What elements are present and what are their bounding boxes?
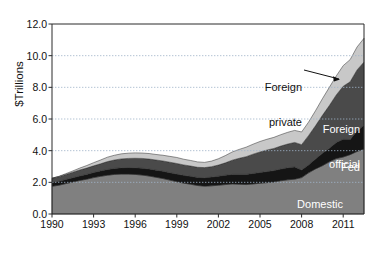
annotation-foreign-private-line1: Foreign	[228, 82, 302, 94]
annotation-fed-line1: Fed	[300, 162, 360, 174]
annotation-domestic-private-line1: Domestic	[278, 199, 362, 211]
chart-figure: $Trillions 0.02.04.06.08.010.012.0 19901…	[0, 0, 386, 255]
annotation-domestic-private: Domestic private	[278, 176, 362, 255]
annotation-domestic-private-line2: private	[278, 234, 362, 246]
annotation-foreign-official-line1: Foreign	[288, 124, 360, 136]
